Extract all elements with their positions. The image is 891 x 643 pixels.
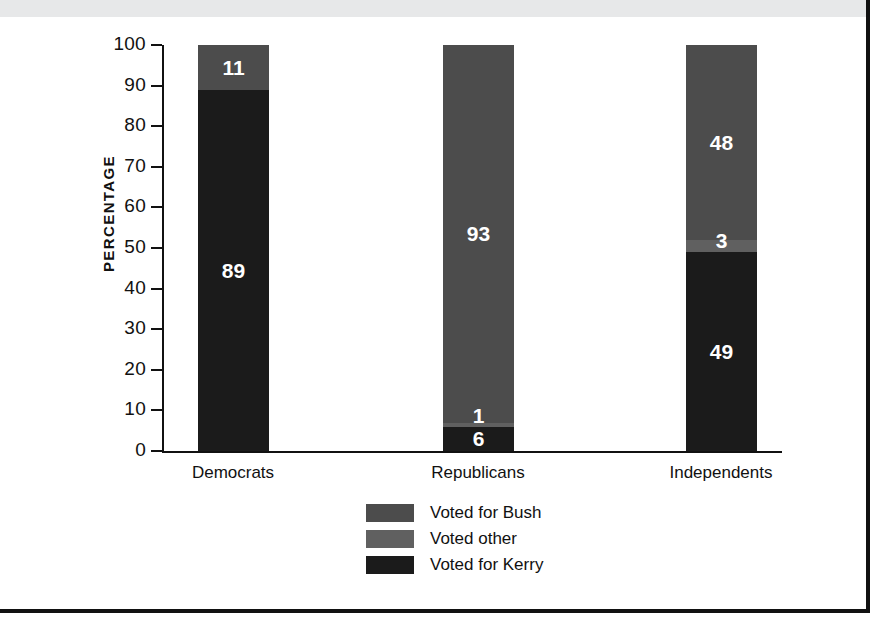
bar-segment[interactable]: 6 — [443, 427, 514, 451]
bar-segment-value-label: 48 — [710, 132, 733, 153]
bar-segment[interactable]: 3 — [686, 240, 757, 252]
bar-segment[interactable]: 93 — [443, 45, 514, 423]
bar-segment-value-label: 1 — [443, 405, 514, 426]
y-axis-line — [162, 45, 164, 453]
y-tick-label: 60 — [102, 195, 146, 217]
stacked-bar[interactable]: 9316 — [443, 45, 514, 451]
legend-label: Voted for Kerry — [430, 555, 543, 575]
legend-label: Voted other — [430, 529, 517, 549]
page-top-band — [0, 0, 868, 17]
y-tick-mark — [151, 85, 162, 87]
bar-segment-value-label: 6 — [473, 428, 485, 449]
bar-segment-value-label: 11 — [222, 57, 244, 78]
legend-item[interactable]: Voted for Bush — [366, 500, 543, 526]
page-right-rule — [866, 0, 870, 612]
stacked-bar[interactable]: 1189 — [198, 45, 269, 451]
y-tick-label: 0 — [102, 439, 146, 461]
legend-item[interactable]: Voted for Kerry — [366, 552, 543, 578]
legend-color-swatch — [366, 556, 414, 574]
x-axis-label-democrats: Democrats — [143, 463, 323, 483]
y-tick-label: 100 — [102, 33, 146, 55]
y-tick-label: 90 — [102, 74, 146, 96]
y-tick-mark — [151, 288, 162, 290]
plot-area: PERCENTAGE 1009080706050403020100 118993… — [162, 45, 782, 453]
y-tick-mark — [151, 44, 162, 46]
y-tick-label: 10 — [102, 398, 146, 420]
x-axis-label-republicans: Republicans — [388, 463, 568, 483]
y-tick-mark — [151, 206, 162, 208]
bar-segment-value-label: 89 — [222, 260, 245, 281]
bar-segment-value-label: 49 — [710, 341, 733, 362]
y-tick-label: 80 — [102, 114, 146, 136]
x-axis-label-independents: Independents — [631, 463, 811, 483]
stacked-bar[interactable]: 48349 — [686, 45, 757, 451]
x-axis-line — [162, 451, 782, 453]
y-tick-label: 20 — [102, 358, 146, 380]
y-tick-mark — [151, 328, 162, 330]
chart-page: PERCENTAGE 1009080706050403020100 118993… — [0, 0, 891, 643]
bar-segment-value-label: 3 — [686, 230, 757, 251]
y-tick-mark — [151, 125, 162, 127]
bar-segment-value-label: 93 — [467, 223, 490, 244]
legend-color-swatch — [366, 504, 414, 522]
y-tick-label: 30 — [102, 317, 146, 339]
y-tick-mark — [151, 166, 162, 168]
y-tick-label: 50 — [102, 236, 146, 258]
page-bottom-rule — [0, 609, 870, 613]
y-tick-mark — [151, 409, 162, 411]
y-tick-mark — [151, 369, 162, 371]
legend-item[interactable]: Voted other — [366, 526, 543, 552]
bar-segment[interactable]: 11 — [198, 45, 269, 90]
y-tick-mark — [151, 450, 162, 452]
y-tick-mark — [151, 247, 162, 249]
legend-label: Voted for Bush — [430, 503, 542, 523]
bar-segment[interactable]: 48 — [686, 45, 757, 240]
bar-segment[interactable]: 89 — [198, 90, 269, 451]
y-tick-label: 70 — [102, 155, 146, 177]
legend-color-swatch — [366, 530, 414, 548]
chart-legend: Voted for BushVoted otherVoted for Kerry — [366, 500, 543, 578]
y-tick-label: 40 — [102, 277, 146, 299]
bar-segment[interactable]: 49 — [686, 252, 757, 451]
